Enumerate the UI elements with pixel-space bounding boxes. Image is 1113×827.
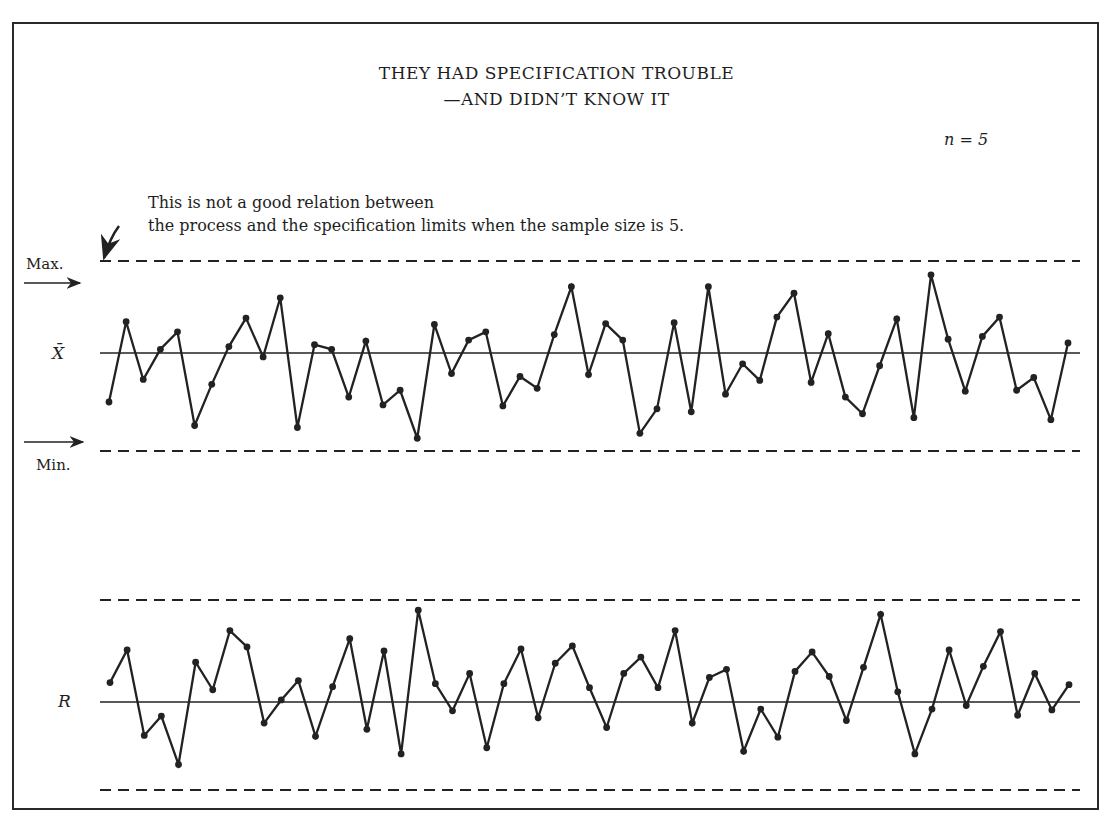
data-point xyxy=(1065,339,1072,346)
data-point xyxy=(106,399,113,406)
data-point xyxy=(979,333,986,340)
data-point xyxy=(586,684,593,691)
data-point xyxy=(278,697,285,704)
data-point xyxy=(603,724,610,731)
data-point xyxy=(1031,670,1038,677)
data-point xyxy=(158,713,165,720)
data-point xyxy=(655,684,662,691)
data-point xyxy=(689,720,696,727)
data-point xyxy=(1013,387,1020,394)
data-point xyxy=(431,321,438,328)
data-point xyxy=(225,343,232,350)
data-point xyxy=(877,611,884,618)
data-point xyxy=(688,408,695,415)
data-point xyxy=(825,330,832,337)
data-point xyxy=(774,734,781,741)
data-point xyxy=(483,744,490,751)
data-point xyxy=(157,346,164,353)
data-point xyxy=(637,654,644,661)
r-chart xyxy=(100,600,1080,790)
data-point xyxy=(552,660,559,667)
data-point xyxy=(243,315,250,322)
data-point xyxy=(619,337,626,344)
data-point xyxy=(448,370,455,377)
data-point xyxy=(107,679,114,686)
data-point xyxy=(757,706,764,713)
data-point xyxy=(722,391,729,398)
data-line xyxy=(109,275,1068,438)
control-charts xyxy=(0,0,1113,827)
data-point xyxy=(602,320,609,327)
data-point xyxy=(809,649,816,656)
data-point xyxy=(311,341,318,348)
data-point xyxy=(123,318,130,325)
data-point xyxy=(568,283,575,290)
data-point xyxy=(124,647,131,654)
data-point xyxy=(345,394,352,401)
data-point xyxy=(1047,416,1054,423)
data-point xyxy=(346,635,353,642)
data-point xyxy=(500,680,507,687)
data-point xyxy=(329,683,336,690)
data-point xyxy=(551,331,558,338)
data-point xyxy=(842,394,849,401)
data-point xyxy=(723,666,730,673)
data-point xyxy=(963,702,970,709)
data-point xyxy=(636,430,643,437)
data-point xyxy=(826,673,833,680)
data-point xyxy=(671,319,678,326)
data-point xyxy=(1030,374,1037,381)
data-point xyxy=(946,647,953,654)
data-point xyxy=(363,726,370,733)
data-point xyxy=(192,659,199,666)
data-point xyxy=(415,607,422,614)
data-point xyxy=(654,405,661,412)
data-point xyxy=(209,686,216,693)
data-point xyxy=(893,316,900,323)
data-point xyxy=(397,387,404,394)
data-point xyxy=(808,379,815,386)
data-point xyxy=(362,338,369,345)
data-point xyxy=(140,376,147,383)
data-point xyxy=(174,328,181,335)
data-point xyxy=(518,646,525,653)
data-point xyxy=(672,627,679,634)
data-point xyxy=(398,751,405,758)
data-point xyxy=(244,644,251,651)
data-point xyxy=(208,381,215,388)
annotation-arrow-icon xyxy=(104,226,119,258)
data-point xyxy=(1014,712,1021,719)
data-point xyxy=(465,337,472,344)
data-point xyxy=(226,627,233,634)
data-point xyxy=(756,377,763,384)
data-point xyxy=(910,414,917,421)
data-point xyxy=(620,670,627,677)
data-point xyxy=(517,373,524,380)
data-point xyxy=(929,706,936,713)
data-point xyxy=(569,643,576,650)
data-point xyxy=(277,294,284,301)
data-point xyxy=(928,271,935,278)
data-point xyxy=(773,314,780,321)
data-point xyxy=(535,714,542,721)
data-point xyxy=(191,422,198,429)
data-point xyxy=(585,371,592,378)
data-point xyxy=(791,290,798,297)
data-point xyxy=(997,628,1004,635)
data-point xyxy=(1048,707,1055,714)
data-point xyxy=(843,717,850,724)
data-point xyxy=(945,336,952,343)
data-point xyxy=(1066,681,1073,688)
data-point xyxy=(980,663,987,670)
data-point xyxy=(141,732,148,739)
data-point xyxy=(911,751,918,758)
data-point xyxy=(260,354,267,361)
data-point xyxy=(876,362,883,369)
data-point xyxy=(312,733,319,740)
data-point xyxy=(534,385,541,392)
data-point xyxy=(860,664,867,671)
data-point xyxy=(739,360,746,367)
data-point xyxy=(466,670,473,677)
xbar-chart xyxy=(100,261,1080,451)
data-point xyxy=(482,328,489,335)
